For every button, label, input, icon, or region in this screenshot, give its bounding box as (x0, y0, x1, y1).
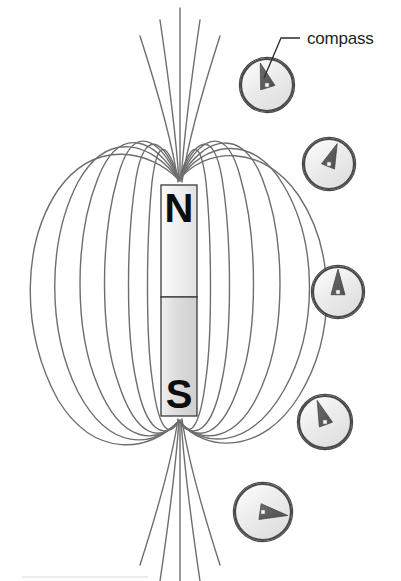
south-pole-label: S (166, 372, 193, 416)
figure-canvas: N S compass (0, 0, 401, 581)
field-line-bottom-4 (181, 420, 200, 581)
bar-magnet: N S (161, 185, 197, 416)
compass-label: compass (307, 29, 374, 48)
compass-5[interactable] (233, 482, 292, 541)
north-pole-label: N (165, 186, 194, 230)
compass-pivot (336, 290, 340, 294)
compass-3[interactable] (311, 265, 364, 318)
compass-pivot (323, 420, 327, 424)
compass-pivot (265, 83, 269, 87)
compass-pivot (327, 162, 331, 166)
compass-2[interactable] (302, 137, 355, 190)
compass-pivot (261, 510, 265, 514)
magnet-field-diagram: N S compass (0, 0, 401, 581)
field-line-bottom-2 (160, 420, 179, 581)
compass-4[interactable] (297, 394, 352, 449)
compass-1[interactable] (239, 57, 294, 112)
